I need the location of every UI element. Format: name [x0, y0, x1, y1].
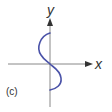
y-axis-arrowhead-icon	[47, 18, 53, 26]
x-axis-label: x	[95, 57, 102, 71]
panel-label: (c)	[6, 86, 18, 98]
x-axis-arrowhead-icon	[85, 61, 93, 67]
y-axis-label: y	[47, 3, 54, 17]
diagram-figure: y x (c)	[0, 0, 112, 112]
